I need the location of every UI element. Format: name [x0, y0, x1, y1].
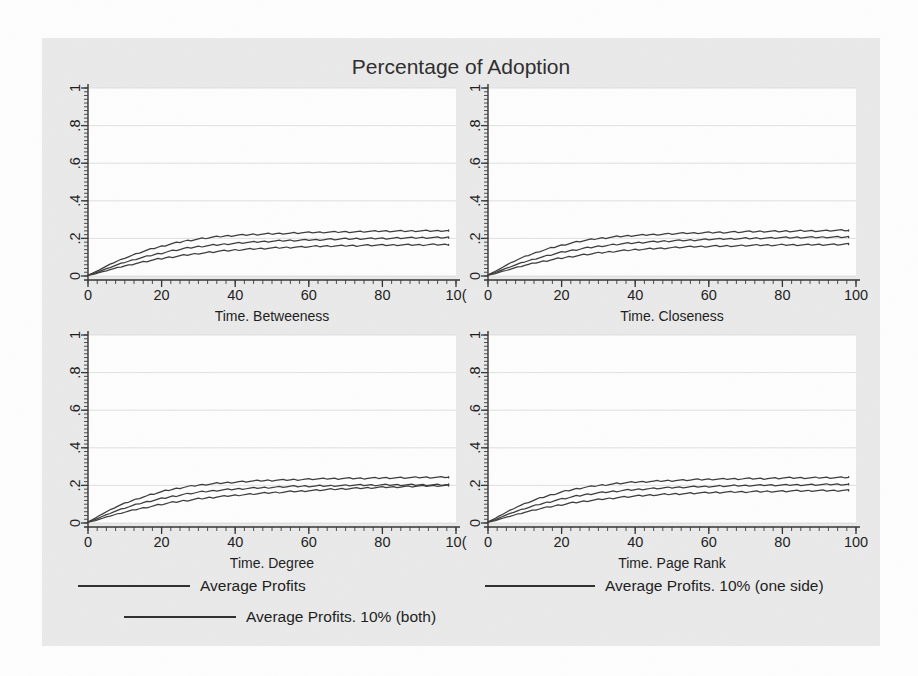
x-tick-label: 60	[701, 287, 717, 303]
x-axis-caption: Time. Degree	[230, 555, 315, 571]
y-tick-label: .4	[467, 195, 483, 207]
x-tick-label: 0	[84, 287, 92, 303]
x-tick-label: 10(	[446, 534, 467, 550]
x-tick-label: 60	[301, 534, 317, 550]
x-tick-label: 0	[484, 534, 492, 550]
legend-label: Average Profits	[200, 577, 306, 594]
x-tick-label: 40	[627, 287, 643, 303]
x-tick-label: 20	[154, 287, 170, 303]
legend-label: Average Profits. 10% (one side)	[605, 577, 824, 594]
y-tick-label: .8	[467, 367, 483, 379]
plot-area-background	[88, 335, 456, 523]
y-tick-label: .6	[467, 157, 483, 169]
y-tick-label: 0	[67, 272, 83, 280]
x-tick-label: 100	[844, 534, 868, 550]
x-tick-label: 40	[227, 534, 243, 550]
y-tick-label: .2	[467, 232, 483, 244]
x-tick-label: 60	[301, 287, 317, 303]
y-tick-label: .2	[67, 232, 83, 244]
y-tick-label: .8	[67, 120, 83, 132]
x-tick-label: 100	[844, 287, 868, 303]
y-tick-label: .6	[67, 157, 83, 169]
y-tick-label: .8	[467, 120, 483, 132]
scanned-page: Percentage of Adoption 0.2.4.6.810204060…	[0, 0, 918, 676]
x-tick-label: 20	[554, 287, 570, 303]
y-tick-label: 0	[467, 272, 483, 280]
legend-label: Average Profits. 10% (both)	[246, 608, 436, 625]
x-tick-label: 10(	[446, 287, 467, 303]
x-tick-label: 0	[484, 287, 492, 303]
y-tick-label: .2	[67, 479, 83, 491]
x-tick-label: 40	[627, 534, 643, 550]
plot-area-background	[488, 335, 856, 523]
x-tick-label: 20	[154, 534, 170, 550]
y-tick-label: .4	[67, 442, 83, 454]
x-tick-label: 40	[227, 287, 243, 303]
x-axis-caption: Time. Page Rank	[618, 555, 727, 571]
x-tick-label: 80	[774, 287, 790, 303]
page-title: Percentage of Adoption	[352, 55, 570, 78]
x-tick-label: 80	[374, 534, 390, 550]
y-tick-label: .2	[467, 479, 483, 491]
y-tick-label: 0	[67, 519, 83, 527]
y-tick-label: 1	[467, 331, 483, 339]
x-tick-label: 80	[774, 534, 790, 550]
figure-region: Percentage of Adoption 0.2.4.6.810204060…	[42, 38, 880, 646]
y-tick-label: .6	[467, 404, 483, 416]
y-tick-label: 0	[467, 519, 483, 527]
y-tick-label: 1	[67, 331, 83, 339]
y-tick-label: 1	[67, 84, 83, 92]
y-tick-label: 1	[467, 84, 483, 92]
y-tick-label: .4	[467, 442, 483, 454]
x-tick-label: 20	[554, 534, 570, 550]
y-tick-label: .8	[67, 367, 83, 379]
x-tick-label: 60	[701, 534, 717, 550]
chart-svg: Percentage of Adoption 0.2.4.6.810204060…	[42, 38, 880, 646]
y-tick-label: .4	[67, 195, 83, 207]
x-axis-caption: Time. Closeness	[620, 308, 724, 324]
x-tick-label: 0	[84, 534, 92, 550]
x-tick-label: 80	[374, 287, 390, 303]
y-tick-label: .6	[67, 404, 83, 416]
x-axis-caption: Time. Betweeness	[215, 308, 330, 324]
